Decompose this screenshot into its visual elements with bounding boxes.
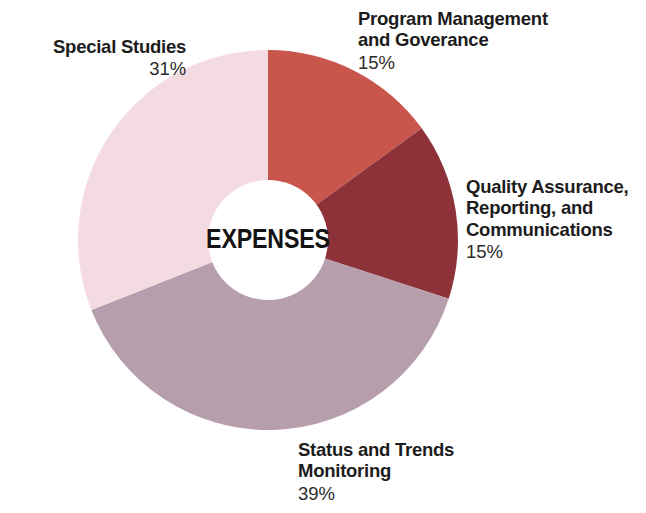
callout-quality-assurance-value: 15% <box>466 241 646 262</box>
callout-quality-assurance: Quality Assurance, Reporting, and Commun… <box>466 176 646 263</box>
callout-program-management-value: 15% <box>358 52 598 73</box>
callout-program-management: Program Management and Goverance 15% <box>358 8 598 73</box>
donut-center-label: EXPENSES <box>206 223 330 253</box>
callout-special-studies-label: Special Studies <box>8 36 186 57</box>
callout-status-trends-value: 39% <box>298 483 528 504</box>
callout-status-trends-label: Status and Trends Monitoring <box>298 439 528 482</box>
callout-status-trends: Status and Trends Monitoring 39% <box>298 439 528 504</box>
callout-special-studies-value: 31% <box>8 58 186 79</box>
callout-program-management-label: Program Management and Goverance <box>358 8 598 51</box>
callout-special-studies: Special Studies 31% <box>8 36 186 80</box>
callout-quality-assurance-label: Quality Assurance, Reporting, and Commun… <box>466 176 646 240</box>
expenses-donut-chart: EXPENSES Special Studies 31% Program Man… <box>0 0 646 513</box>
